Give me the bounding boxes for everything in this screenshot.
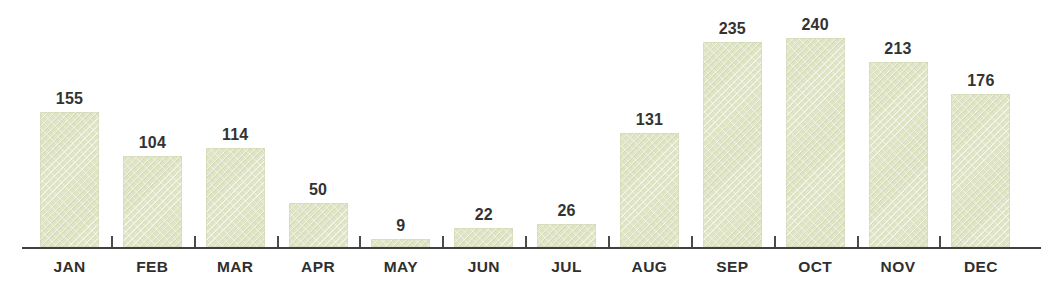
- axis-tick-9: [857, 236, 859, 247]
- value-label-nov: 213: [869, 41, 928, 57]
- category-label-jul: JUL: [537, 259, 596, 275]
- category-label-may: MAY: [371, 259, 430, 275]
- value-label-apr: 50: [289, 182, 348, 198]
- plot-area: 155JAN104FEB114MAR50APR9MAY22JUN26JUL131…: [0, 0, 1060, 287]
- bar-jan[interactable]: [40, 112, 99, 247]
- value-label-dec: 176: [951, 73, 1010, 89]
- category-label-mar: MAR: [206, 259, 265, 275]
- category-label-sep: SEP: [703, 259, 762, 275]
- axis-tick-3: [359, 236, 361, 247]
- axis-tick-6: [608, 236, 610, 247]
- axis-tick-2: [277, 236, 279, 247]
- value-label-feb: 104: [123, 135, 182, 151]
- bar-sep[interactable]: [703, 42, 762, 247]
- bar-oct[interactable]: [786, 38, 845, 247]
- category-label-aug: AUG: [620, 259, 679, 275]
- bar-may[interactable]: [371, 239, 430, 247]
- axis-tick-8: [774, 236, 776, 247]
- category-label-jan: JAN: [40, 259, 99, 275]
- bar-jul[interactable]: [537, 224, 596, 247]
- category-label-nov: NOV: [869, 259, 928, 275]
- category-label-jun: JUN: [454, 259, 513, 275]
- category-label-feb: FEB: [123, 259, 182, 275]
- axis-tick-10: [939, 236, 941, 247]
- axis-tick-5: [525, 236, 527, 247]
- axis-tick-0: [111, 236, 113, 247]
- x-axis-line: [22, 247, 1041, 249]
- axis-tick-4: [442, 236, 444, 247]
- value-label-sep: 235: [703, 21, 762, 37]
- category-label-dec: DEC: [951, 259, 1010, 275]
- category-label-apr: APR: [289, 259, 348, 275]
- value-label-jun: 22: [454, 207, 513, 223]
- value-label-jul: 26: [537, 203, 596, 219]
- bar-mar[interactable]: [206, 148, 265, 247]
- value-label-aug: 131: [620, 112, 679, 128]
- bar-apr[interactable]: [289, 203, 348, 247]
- category-label-oct: OCT: [786, 259, 845, 275]
- axis-tick-7: [691, 236, 693, 247]
- bar-feb[interactable]: [123, 156, 182, 247]
- bar-dec[interactable]: [951, 94, 1010, 247]
- value-label-oct: 240: [786, 17, 845, 33]
- bar-aug[interactable]: [620, 133, 679, 247]
- value-label-jan: 155: [40, 91, 99, 107]
- bar-chart: 155JAN104FEB114MAR50APR9MAY22JUN26JUL131…: [0, 0, 1060, 287]
- bar-jun[interactable]: [454, 228, 513, 247]
- axis-tick-1: [194, 236, 196, 247]
- value-label-mar: 114: [206, 127, 265, 143]
- value-label-may: 9: [371, 218, 430, 234]
- bar-nov[interactable]: [869, 62, 928, 247]
